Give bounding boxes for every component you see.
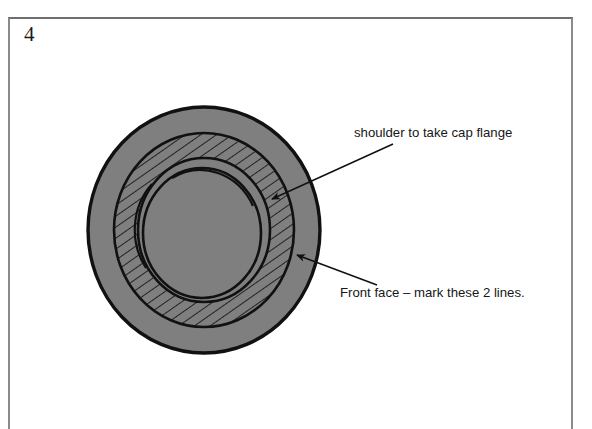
front-face-callout-label: Front face – mark these 2 lines. xyxy=(340,285,525,300)
inner-recess-circle xyxy=(143,168,261,298)
front-face-callout: Front face – mark these 2 lines. xyxy=(297,255,525,300)
technical-drawing-canvas: shoulder to take cap flange Front face –… xyxy=(0,0,592,429)
diagram-page: 4 shoulder to xyxy=(0,0,592,429)
shoulder-callout-label: shoulder to take cap flange xyxy=(354,125,512,140)
